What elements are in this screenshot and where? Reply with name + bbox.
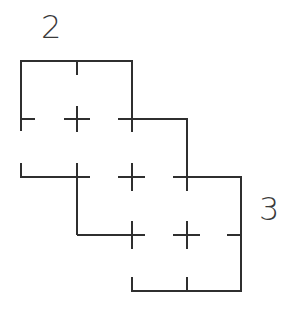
label-2: 2 xyxy=(41,11,61,43)
label-3: 3 xyxy=(259,193,279,225)
corner-left-row2 xyxy=(21,163,90,177)
grid-diagram xyxy=(0,0,290,321)
cross-132-177 xyxy=(118,163,145,191)
cross-187-177 xyxy=(173,177,187,191)
cross-187-235 xyxy=(173,221,200,249)
cross-132-119 xyxy=(118,119,132,132)
cross-77-119 xyxy=(64,106,90,132)
